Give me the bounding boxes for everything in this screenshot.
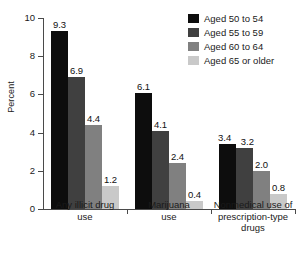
bar-value-label: 0.8 <box>272 182 285 193</box>
legend-swatch <box>188 56 199 65</box>
legend: Aged 50 to 54Aged 55 to 59Aged 60 to 64A… <box>188 11 274 67</box>
x-axis-tick <box>295 209 296 214</box>
legend-item: Aged 50 to 54 <box>188 11 274 25</box>
category-label-line: Any illicit drug <box>43 199 127 211</box>
x-axis-category-label: Nonmedical use ofprescription-typedrugs <box>211 199 295 234</box>
y-axis-tick-label: 2 <box>30 165 35 176</box>
category-label-line: prescription-type <box>211 211 295 223</box>
legend-swatch <box>188 14 199 23</box>
bar-value-label: 2.4 <box>171 151 184 162</box>
category-label-line: drugs <box>211 222 295 234</box>
legend-item: Aged 55 to 59 <box>188 25 274 39</box>
bar-value-label: 6.1 <box>137 81 150 92</box>
bar-value-label: 3.4 <box>218 132 231 143</box>
bar-value-label: 6.9 <box>70 65 83 76</box>
y-axis-tick: 10 <box>38 18 43 19</box>
y-axis-tick: 6 <box>38 94 43 95</box>
bar: 4.1 <box>152 131 169 209</box>
y-axis-tick-label: 6 <box>30 88 35 99</box>
y-axis-tick-label: 4 <box>30 127 35 138</box>
legend-swatch <box>188 28 199 37</box>
legend-swatch <box>188 42 199 51</box>
bar: 6.9 <box>68 77 85 209</box>
x-axis-category-label: Any illicit druguse <box>43 199 127 222</box>
bar-value-label: 9.3 <box>53 19 66 30</box>
y-axis-tick: 4 <box>38 133 43 134</box>
y-axis-label: Percent <box>6 67 16 127</box>
category-label-line: Nonmedical use of <box>211 199 295 211</box>
legend-label: Aged 60 to 64 <box>204 41 263 52</box>
y-axis-tick: 8 <box>38 56 43 57</box>
bar: 4.4 <box>85 125 102 209</box>
legend-item: Aged 65 or older <box>188 53 274 67</box>
bar-value-label: 1.2 <box>104 174 117 185</box>
bar-value-label: 4.1 <box>154 119 167 130</box>
bar-value-label: 2.0 <box>255 159 268 170</box>
bar-value-label: 4.4 <box>87 113 100 124</box>
y-axis-tick-label: 8 <box>30 50 35 61</box>
y-axis-line <box>43 18 44 209</box>
x-axis-category-label: Marijuanause <box>127 199 211 222</box>
bar-chart: Percent 0246810 9.36.94.41.26.14.12.40.4… <box>0 0 307 263</box>
bar: 6.1 <box>135 93 152 210</box>
legend-item: Aged 60 to 64 <box>188 39 274 53</box>
y-axis-tick: 2 <box>38 171 43 172</box>
bar: 9.3 <box>51 31 68 209</box>
category-label-line: use <box>127 211 211 223</box>
category-label-line: use <box>43 211 127 223</box>
y-axis-tick-label: 10 <box>24 12 35 23</box>
y-axis-tick-label: 0 <box>30 203 35 214</box>
legend-label: Aged 50 to 54 <box>204 13 263 24</box>
legend-label: Aged 55 to 59 <box>204 27 263 38</box>
category-label-line: Marijuana <box>127 199 211 211</box>
bar-value-label: 3.2 <box>241 136 254 147</box>
legend-label: Aged 65 or older <box>204 55 274 66</box>
